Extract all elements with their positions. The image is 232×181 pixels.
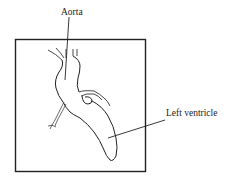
frame-box xyxy=(16,40,146,172)
appendage-outer xyxy=(79,91,110,106)
left-ventricle-leader-line xyxy=(108,120,165,138)
vessel-left-branch xyxy=(48,50,62,60)
small-vessel-inner xyxy=(55,104,66,126)
aorta-label: Aorta xyxy=(61,7,83,17)
heart-diagram: Aorta Left ventricle xyxy=(0,0,232,181)
diagram: Aorta Left ventricle xyxy=(0,0,232,181)
small-vessel-outer xyxy=(52,102,64,125)
appendage-loop xyxy=(82,96,92,104)
vessel-left-branch-inner xyxy=(56,48,64,58)
left-ventricle-label: Left ventricle xyxy=(166,108,217,118)
aorta-leader-line xyxy=(65,17,69,80)
aorta-right-wall xyxy=(73,56,80,92)
left-ventricle-outline xyxy=(70,101,117,161)
